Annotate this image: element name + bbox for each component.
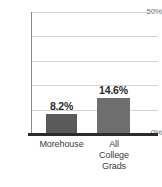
- category-label-morehouse: Morehouse: [28, 139, 95, 150]
- x-axis-category-labels: Morehouse AllCollegeGrads: [31, 139, 158, 185]
- category-label-line: Morehouse: [28, 139, 95, 150]
- x-axis-baseline: [28, 133, 158, 136]
- plot-area: 8.2% 14.6%: [31, 12, 158, 134]
- y-axis-line: [31, 12, 32, 134]
- bar-morehouse: [46, 114, 77, 134]
- category-label-all-college-grads: AllCollegeGrads: [89, 139, 139, 172]
- category-label-line: College: [89, 150, 139, 161]
- value-label-morehouse: 8.2%: [44, 100, 79, 112]
- gridline-40: [31, 36, 158, 37]
- value-label-all-college-grads: 14.6%: [93, 84, 134, 96]
- gridline-30: [31, 61, 158, 62]
- category-label-line: Grads: [89, 161, 139, 172]
- bar-all-college-grads: [97, 98, 130, 134]
- bar-chart: 50% 0% 8.2% 14.6% Morehouse AllCollegeGr…: [0, 0, 162, 187]
- gridline-50: [31, 12, 158, 13]
- category-label-line: All: [89, 139, 139, 150]
